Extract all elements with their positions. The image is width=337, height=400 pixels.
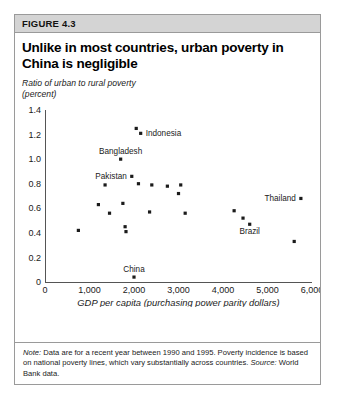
figure-title: Unlike in most countries, urban poverty … xyxy=(15,33,320,74)
y-axis-unit-line2: (percent) xyxy=(22,89,313,100)
data-point xyxy=(124,230,127,233)
data-point xyxy=(177,192,180,195)
x-tick-label: 0 xyxy=(42,285,47,295)
figure-number: FIGURE 4.3 xyxy=(22,18,76,29)
x-axis-tick-labels: 01,0002,0003,0004,0005,0006,000 xyxy=(42,285,320,295)
figure-card: FIGURE 4.3 Unlike in most countries, urb… xyxy=(14,14,321,385)
y-tick-label: 0.2 xyxy=(28,253,41,263)
data-point-label: Bangladesh xyxy=(99,147,143,156)
x-tick-label: 3,000 xyxy=(167,285,190,295)
y-tick-label: 1.0 xyxy=(28,155,41,165)
data-point xyxy=(233,209,236,212)
plot-area: 00.20.40.60.81.01.21.4 01,0002,0003,0004… xyxy=(15,102,320,307)
data-point xyxy=(179,184,182,187)
data-point xyxy=(299,197,302,200)
y-tick-label: 1.2 xyxy=(28,130,41,140)
data-point-label: Pakistan xyxy=(95,173,127,182)
data-point-labels: BangladeshPakistanChinaIndonesiaBrazilTh… xyxy=(95,130,296,275)
data-point xyxy=(124,225,127,228)
x-tick-label: 4,000 xyxy=(212,285,235,295)
data-point xyxy=(150,184,153,187)
data-point xyxy=(137,182,140,185)
data-point xyxy=(97,203,100,206)
data-point xyxy=(293,240,296,243)
x-axis-title: GDP per capita (purchasing power parity … xyxy=(77,297,279,307)
note-lead: Note: xyxy=(23,348,41,357)
scatter-chart: 00.20.40.60.81.01.21.4 01,0002,0003,0004… xyxy=(15,102,320,307)
y-axis-unit-label: Ratio of urban to rural poverty (percent… xyxy=(15,74,320,100)
source-lead: Source: xyxy=(251,358,277,367)
x-tick-label: 6,000 xyxy=(301,285,320,295)
y-tick-label: 0.4 xyxy=(28,228,41,238)
data-point xyxy=(119,158,122,161)
data-point xyxy=(148,211,151,214)
figure-header: FIGURE 4.3 xyxy=(15,15,320,33)
data-point-label: Thailand xyxy=(264,195,296,204)
data-point xyxy=(248,223,251,226)
y-tick-label: 0.8 xyxy=(28,179,41,189)
x-tick-label: 5,000 xyxy=(256,285,279,295)
data-point-label: Brazil xyxy=(239,227,260,236)
y-tick-label: 0.6 xyxy=(28,204,41,214)
data-point xyxy=(130,175,133,178)
data-point xyxy=(139,132,142,135)
y-axis-tick-labels: 00.20.40.60.81.01.21.4 xyxy=(28,105,41,287)
y-tick-label: 1.4 xyxy=(28,105,41,115)
data-point xyxy=(121,202,124,205)
data-point xyxy=(135,127,138,130)
y-axis-unit-line1: Ratio of urban to rural poverty xyxy=(22,78,313,89)
data-point xyxy=(77,229,80,232)
data-point-label: Indonesia xyxy=(146,130,182,139)
x-tick-label: 1,000 xyxy=(78,285,101,295)
figure-footnote: Note: Data are for a recent year between… xyxy=(15,342,320,384)
x-tick-label: 2,000 xyxy=(123,285,146,295)
data-point xyxy=(184,212,187,215)
data-point-label: China xyxy=(123,265,145,274)
y-tick-label: 0 xyxy=(36,277,41,287)
data-point xyxy=(166,185,169,188)
data-point xyxy=(132,276,135,279)
data-point xyxy=(241,217,244,220)
data-point xyxy=(103,184,106,187)
data-point xyxy=(108,212,111,215)
